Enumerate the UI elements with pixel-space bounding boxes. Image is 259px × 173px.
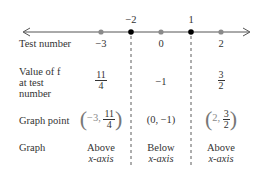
graph-position-line: Above xyxy=(81,142,121,153)
fraction: 32 xyxy=(223,109,230,130)
graph-position-line: x-axis xyxy=(201,153,241,164)
row-label-test-number: Test number xyxy=(19,38,71,49)
row-label-graph-point: Graph point xyxy=(19,115,69,126)
denominator: 2 xyxy=(224,120,229,130)
left-paren: ( xyxy=(80,106,87,131)
value-cell: 11 4 xyxy=(86,70,116,91)
row-label-line: Value of f xyxy=(19,66,60,77)
row-label-value-of-f: Value of f at test number xyxy=(19,66,60,99)
row-label-line: number xyxy=(19,88,60,99)
numerator: 11 xyxy=(103,109,115,120)
critical-point-label: 1 xyxy=(176,14,206,25)
test-point-dot xyxy=(218,29,223,34)
point-x: 2, xyxy=(212,112,220,123)
graph-point-cell: (−3, 114) xyxy=(74,108,128,130)
graph-position-cell: Above x-axis xyxy=(81,142,121,164)
graph-position-line: Below xyxy=(141,142,181,153)
denominator: 2 xyxy=(219,81,224,91)
fraction: 3 2 xyxy=(218,70,225,91)
critical-point-dot xyxy=(128,29,134,35)
denominator: 4 xyxy=(107,120,112,130)
critical-point-dot xyxy=(188,29,194,35)
row-label-graph: Graph xyxy=(19,142,45,153)
test-number-cell: 0 xyxy=(146,38,176,49)
fraction: 114 xyxy=(103,109,115,130)
graph-position-cell: Below x-axis xyxy=(141,142,181,164)
graph-point-cell: (0, −1) xyxy=(136,114,186,125)
test-point-dot xyxy=(158,29,163,34)
graph-position-line: x-axis xyxy=(141,153,181,164)
point-x: −3, xyxy=(87,112,101,123)
row-label-line: at test xyxy=(19,77,60,88)
test-number-cell: −3 xyxy=(86,38,116,49)
graph-position-line: x-axis xyxy=(81,153,121,164)
right-paren: ) xyxy=(115,106,122,131)
right-paren: ) xyxy=(230,106,237,131)
denominator: 4 xyxy=(98,81,103,91)
test-number-cell: 2 xyxy=(206,38,236,49)
numerator: 3 xyxy=(223,109,230,120)
value-cell: −1 xyxy=(146,76,176,87)
graph-position-line: Above xyxy=(201,142,241,153)
critical-point-label: −2 xyxy=(116,14,146,25)
graph-point-cell: (2, 32) xyxy=(196,108,246,130)
graph-position-cell: Above x-axis xyxy=(201,142,241,164)
test-point-dot xyxy=(98,29,103,34)
value-cell: 3 2 xyxy=(206,70,236,91)
fraction: 11 4 xyxy=(95,70,107,91)
